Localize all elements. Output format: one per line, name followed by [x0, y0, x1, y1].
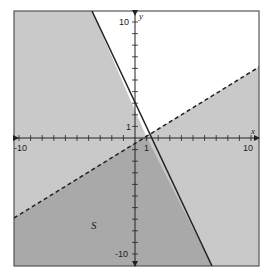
y-max-label: 10	[119, 17, 129, 27]
y-min-label: -10	[115, 249, 128, 259]
x-one-label: 1	[144, 143, 149, 153]
x-max-label: 10	[243, 143, 253, 153]
x-min-label: -10	[14, 143, 27, 153]
y-one-label: 1	[126, 122, 131, 132]
region-s-label: S	[91, 219, 97, 231]
x-axis-label: x	[250, 126, 255, 136]
y-axis-label: y	[138, 11, 143, 21]
graph: -10 1 10 x 10 1 -10 y S	[0, 0, 266, 276]
